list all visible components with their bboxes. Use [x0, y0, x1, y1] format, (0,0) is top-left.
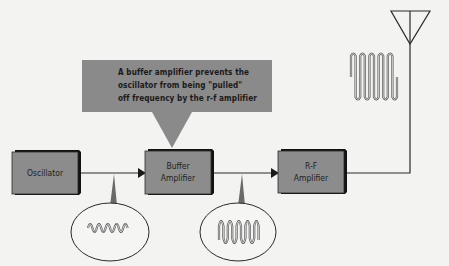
block-diagram [0, 0, 449, 266]
block-label-line: Buffer [150, 160, 206, 172]
callout-line: oscillator from being "pulled" [118, 79, 232, 92]
rf-amplifier-label: R-F Amplifier [283, 160, 339, 184]
oscillator-waveform [71, 203, 149, 261]
antenna-waveform [351, 54, 397, 100]
callout-text: A buffer amplifier prevents the oscillat… [118, 66, 232, 105]
block-label-line: Amplifier [150, 172, 206, 184]
buffer-waveform [200, 203, 276, 261]
callout-line: A buffer amplifier prevents the [118, 66, 232, 79]
oscillator-label: Oscillator [17, 167, 73, 179]
block-label-line: R-F [283, 160, 339, 172]
block-label-line: Oscillator [17, 167, 73, 179]
oscillator-output-pointer [110, 174, 117, 206]
buffer-output-pointer [238, 174, 245, 206]
block-label-line: Amplifier [283, 172, 339, 184]
callout-line: off frequency by the r-f amplifier [118, 92, 232, 105]
buffer-amplifier-label: Buffer Amplifier [150, 160, 206, 184]
